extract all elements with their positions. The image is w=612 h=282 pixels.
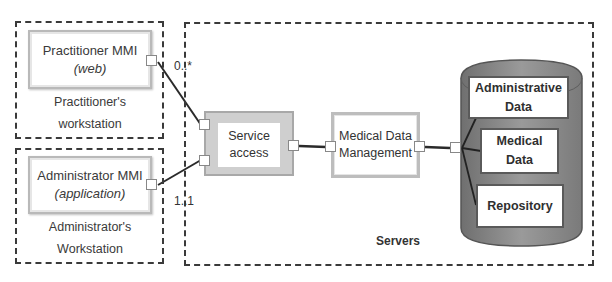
administrator-mmi-component[interactable]: Administrator MMI (application) [28,156,152,214]
caption-line: Workstation [28,238,152,260]
mdm-port-out[interactable] [414,141,425,152]
administrator-mmi-port[interactable] [146,179,157,190]
administrator-multiplicity: 1..1 [174,194,194,208]
label-line: access [230,145,269,162]
practitioner-mmi-component[interactable]: Practitioner MMI (web) [28,30,152,89]
label-line: Management [339,145,412,162]
service-access-port-administrator[interactable] [199,155,210,166]
label-line: Medical Data [339,128,412,145]
service-access-port-practitioner[interactable] [199,119,210,130]
mdm-port-in[interactable] [325,141,336,152]
label-line: Service [228,128,270,145]
service-access-component[interactable]: Service access [204,111,294,176]
label-line: Medical [497,132,543,151]
label-line: Repository [487,197,552,216]
medical-data-management-component[interactable]: Medical Data Management [331,112,420,178]
label-line: Data [506,151,533,170]
label-line: Administrative [475,79,562,98]
caption-line: workstation [28,113,152,135]
servers-label: Servers [376,234,420,248]
label-line: Data [505,98,532,117]
practitioner-mmi-subtitle: (web) [74,59,107,78]
administrator-mmi-title: Administrator MMI [37,167,142,184]
administrator-mmi-subtitle: (application) [55,184,126,203]
service-access-port-out[interactable] [288,140,299,151]
practitioner-mmi-title: Practitioner MMI [43,42,138,59]
caption-line: Administrator's [28,216,152,238]
service-access-label: Service access [218,123,280,167]
medical-data-store[interactable]: Medical Data [480,128,559,174]
practitioner-multiplicity: 0..* [174,59,192,73]
database-port[interactable] [450,142,461,153]
administrator-workstation-caption: Administrator's Workstation [28,216,152,260]
caption-line: Practitioner's [28,91,152,113]
practitioner-workstation-caption: Practitioner's workstation [28,91,152,135]
practitioner-mmi-port[interactable] [146,55,157,66]
repository-store[interactable]: Repository [476,184,564,228]
administrative-data-store[interactable]: Administrative Data [468,76,569,119]
